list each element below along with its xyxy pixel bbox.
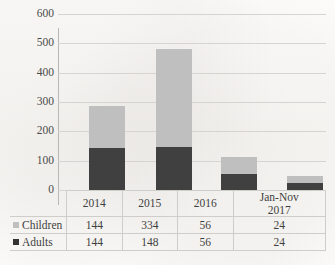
legend-swatch-icon-children [13, 222, 19, 228]
legend-item-children: Children [10, 217, 67, 234]
table-header-line1: 2014 [67, 197, 122, 210]
table-header-line1: 2016 [178, 197, 233, 210]
chart-page: 6005004003002001000 201420152016Jan-Nov2… [0, 0, 335, 265]
table-cell: 334 [122, 217, 178, 234]
plot-area [58, 14, 326, 190]
table-cell: 56 [178, 217, 234, 234]
y-axis-labels: 6005004003002001000 [8, 0, 54, 200]
table-header-1: 2014 [67, 191, 123, 217]
bar-segment-children [156, 49, 192, 147]
bar-2016 [221, 157, 257, 190]
table-header-3: 2016 [178, 191, 234, 217]
y-axis-tick-300: 300 [10, 96, 54, 108]
table-cell: 148 [122, 234, 178, 251]
table-cell: 24 [233, 234, 326, 251]
table-cell: 56 [178, 234, 234, 251]
table-header-line1: 2015 [123, 197, 178, 210]
gridline-500 [58, 43, 326, 44]
y-axis-line [58, 28, 59, 205]
y-axis-tick-600: 600 [10, 8, 54, 20]
table-header-line2: 2017 [234, 204, 326, 217]
legend-item-adults: Adults [10, 234, 67, 251]
data-table: 201420152016Jan-Nov2017 Children14433456… [10, 190, 326, 251]
chart-title-cropped [62, 0, 300, 4]
table-corner-cell [10, 191, 67, 217]
table-cell: 144 [67, 234, 123, 251]
bar-segment-children [287, 176, 323, 183]
table-cell: 144 [67, 217, 123, 234]
table-row: Children1443345624 [10, 217, 326, 234]
legend-label: Adults [22, 236, 53, 248]
bar-2015 [156, 49, 192, 190]
table-row: Adults1441485624 [10, 234, 326, 251]
table-header-line1: Jan-Nov [234, 191, 326, 204]
gridline-300 [58, 102, 326, 103]
legend-label: Children [22, 219, 62, 231]
bar-segment-adults [156, 147, 192, 190]
y-axis-tick-400: 400 [10, 67, 54, 79]
table-header-row: 201420152016Jan-Nov2017 [10, 191, 326, 217]
y-axis-tick-100: 100 [10, 155, 54, 167]
gridline-600 [58, 14, 326, 15]
bar-segment-adults [221, 174, 257, 190]
table-header-2: 2015 [122, 191, 178, 217]
data-table-body: 201420152016Jan-Nov2017 Children14433456… [10, 191, 326, 251]
bar-segment-children [89, 106, 125, 148]
bar-segment-adults [287, 183, 323, 190]
gridline-400 [58, 73, 326, 74]
bar-jan-nov-2017 [287, 176, 323, 190]
y-axis-tick-200: 200 [10, 125, 54, 137]
bar-segment-adults [89, 148, 125, 190]
y-axis-tick-500: 500 [10, 37, 54, 49]
table-cell: 24 [233, 217, 326, 234]
table-header-4: Jan-Nov2017 [233, 191, 326, 217]
legend-swatch-icon-adults [13, 239, 19, 245]
bar-2014 [89, 106, 125, 190]
bar-segment-children [221, 157, 257, 173]
